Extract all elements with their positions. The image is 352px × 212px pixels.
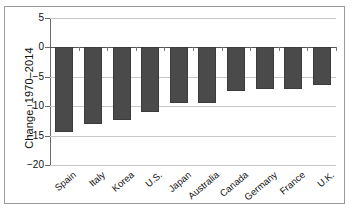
category-tick — [307, 47, 308, 51]
category-tick — [136, 47, 137, 51]
category-tick — [222, 47, 223, 51]
category-tick — [193, 47, 194, 51]
category-ticks — [50, 47, 336, 165]
y-axis-tick-labels: 50−5−10−15−20 — [0, 0, 44, 212]
gridline — [50, 165, 336, 166]
plot-area — [50, 18, 336, 165]
category-tick — [279, 47, 280, 51]
y-axis-tick-label: −15 — [2, 130, 44, 141]
y-axis-tick-label: 0 — [2, 41, 44, 52]
category-tick — [250, 47, 251, 51]
y-axis-tick-label: −20 — [2, 159, 44, 170]
y-axis-tick-label: −10 — [2, 100, 44, 111]
y-axis-tick-label: 5 — [2, 12, 44, 23]
x-axis-category-labels: SpainItalyKoreaU.S.JapanAustraliaCanadaG… — [50, 167, 336, 211]
y-axis-tick-label: −5 — [2, 71, 44, 82]
chart-figure: Change, 1970–2014 50−5−10−15−20 SpainIta… — [0, 0, 352, 212]
category-tick — [336, 47, 337, 51]
category-tick — [164, 47, 165, 51]
category-tick — [107, 47, 108, 51]
category-tick — [79, 47, 80, 51]
